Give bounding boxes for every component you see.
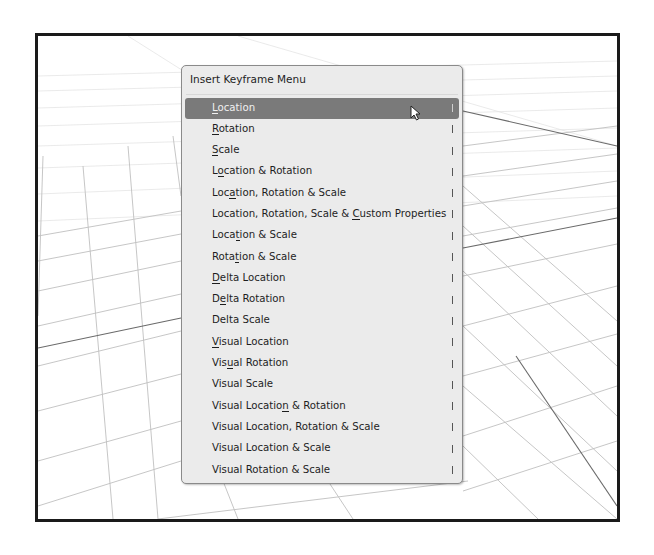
- shortcut-marker: [452, 423, 453, 431]
- shortcut-marker: [452, 402, 453, 410]
- menu-item-label: Location & Rotation: [212, 165, 312, 176]
- shortcut-marker: [452, 168, 453, 176]
- shortcut-marker: [452, 147, 453, 155]
- menu-item-location[interactable]: Location: [185, 98, 459, 119]
- menu-item-label: Delta Location: [212, 272, 286, 283]
- shortcut-marker: [452, 296, 453, 304]
- menu-item-label: Location & Scale: [212, 229, 297, 240]
- menu-item-label: Location, Rotation, Scale & Custom Prope…: [212, 208, 446, 219]
- menu-item-delta-location[interactable]: Delta Location: [185, 268, 459, 289]
- menu-item-label: Visual Rotation & Scale: [212, 464, 330, 475]
- shortcut-marker: [452, 189, 453, 197]
- menu-item-visual-location[interactable]: Visual Location: [185, 332, 459, 353]
- menu-item-label: Rotation & Scale: [212, 251, 296, 262]
- menu-item-label: Visual Scale: [212, 378, 273, 389]
- menu-item-rotation-scale[interactable]: Rotation & Scale: [185, 247, 459, 268]
- menu-item-label: Location: [212, 102, 255, 113]
- menu-item-label: Visual Location & Scale: [212, 442, 331, 453]
- shortcut-marker: [452, 317, 453, 325]
- menu-title: Insert Keyframe Menu: [190, 73, 306, 85]
- menu-item-label: Scale: [212, 144, 239, 155]
- shortcut-marker: [452, 274, 453, 282]
- menu-item-label: Visual Location: [212, 336, 289, 347]
- menu-item-label: Delta Scale: [212, 314, 270, 325]
- menu-item-location-rotation-scale-custom-properties[interactable]: Location, Rotation, Scale & Custom Prope…: [185, 204, 459, 225]
- menu-item-label: Visual Location, Rotation & Scale: [212, 421, 380, 432]
- menu-item-location-rotation[interactable]: Location & Rotation: [185, 162, 459, 183]
- menu-item-label: Rotation: [212, 123, 255, 134]
- menu-item-location-scale[interactable]: Location & Scale: [185, 226, 459, 247]
- menu-item-location-rotation-scale[interactable]: Location, Rotation & Scale: [185, 183, 459, 204]
- shortcut-marker: [452, 104, 453, 112]
- shortcut-marker: [452, 381, 453, 389]
- menu-item-delta-scale[interactable]: Delta Scale: [185, 311, 459, 332]
- menu-item-label: Visual Rotation: [212, 357, 288, 368]
- shortcut-marker: [452, 360, 453, 368]
- menu-item-visual-location-rotation-scale[interactable]: Visual Location, Rotation & Scale: [185, 417, 459, 438]
- menu-item-label: Visual Location & Rotation: [212, 400, 346, 411]
- menu-item-label: Delta Rotation: [212, 293, 285, 304]
- shortcut-marker: [452, 338, 453, 346]
- menu-item-label: Location, Rotation & Scale: [212, 187, 346, 198]
- 3d-viewport[interactable]: Insert Keyframe Menu LocationRotationSca…: [35, 33, 620, 522]
- menu-item-scale[interactable]: Scale: [185, 141, 459, 162]
- shortcut-marker: [452, 232, 453, 240]
- shortcut-marker: [452, 253, 453, 261]
- menu-item-visual-location-rotation[interactable]: Visual Location & Rotation: [185, 396, 459, 417]
- menu-item-visual-scale[interactable]: Visual Scale: [185, 375, 459, 396]
- shortcut-marker: [452, 210, 453, 218]
- insert-keyframe-menu: Insert Keyframe Menu LocationRotationSca…: [181, 65, 463, 484]
- menu-item-visual-location-scale[interactable]: Visual Location & Scale: [185, 439, 459, 460]
- shortcut-marker: [452, 125, 453, 133]
- shortcut-marker: [452, 445, 453, 453]
- menu-items: LocationRotationScaleLocation & Rotation…: [182, 98, 462, 481]
- shortcut-marker: [452, 466, 453, 474]
- menu-item-visual-rotation[interactable]: Visual Rotation: [185, 354, 459, 375]
- menu-separator: [186, 94, 458, 95]
- menu-item-delta-rotation[interactable]: Delta Rotation: [185, 290, 459, 311]
- menu-item-visual-rotation-scale[interactable]: Visual Rotation & Scale: [185, 460, 459, 481]
- menu-item-rotation[interactable]: Rotation: [185, 119, 459, 140]
